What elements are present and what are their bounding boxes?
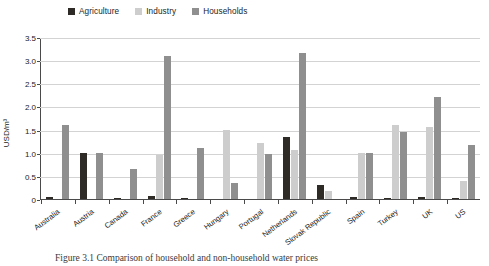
y-tick-label: 2.5	[25, 80, 36, 89]
figure-caption: Figure 3.1 Comparison of household and n…	[55, 253, 445, 263]
bar-households	[62, 125, 69, 199]
y-tick-mark	[37, 107, 40, 108]
bar-agriculture	[384, 198, 391, 199]
bar-industry	[156, 155, 163, 199]
x-label-cell: US	[447, 204, 481, 248]
legend-swatch-industry	[135, 8, 142, 15]
bar-group	[412, 38, 446, 199]
bar-households	[164, 56, 171, 199]
bar-agriculture	[148, 196, 155, 199]
legend-item-households: Households	[192, 7, 247, 16]
bar-households	[197, 148, 204, 199]
x-label-cell: Turkey	[379, 204, 413, 248]
y-tick-mark	[37, 131, 40, 132]
bar-group	[345, 38, 379, 199]
y-tick-mark	[37, 200, 40, 201]
y-tick-mark	[37, 177, 40, 178]
bar-agriculture	[350, 197, 357, 199]
y-tick-label: 1.0	[25, 149, 36, 158]
bar-group	[379, 38, 413, 199]
bar-group	[311, 38, 345, 199]
x-label-cell: France	[143, 204, 177, 248]
x-label-cell: Austria	[75, 204, 109, 248]
bar-industry	[426, 127, 433, 199]
bar-households	[434, 97, 441, 199]
x-axis-category-label: UK	[420, 207, 434, 221]
bar-agriculture	[418, 197, 425, 199]
x-label-cell: Spain	[346, 204, 380, 248]
x-axis-category-label: France	[139, 207, 163, 228]
bar-households	[265, 154, 272, 199]
bar-industry	[223, 130, 230, 199]
y-tick-mark	[37, 84, 40, 85]
x-axis-category-label: Austria	[71, 207, 95, 228]
chart-legend: Agriculture Industry Households	[68, 7, 247, 16]
y-tick-label: 1.5	[25, 126, 36, 135]
x-axis-labels: AustraliaAustriaCanadaFranceGreeceHungar…	[41, 204, 481, 248]
bar-agriculture	[80, 153, 87, 199]
bar-group	[75, 38, 109, 199]
x-label-cell: Slovak Republic	[312, 204, 346, 248]
bar-households	[299, 53, 306, 199]
bar-industry	[257, 143, 264, 199]
bar-industry	[358, 153, 365, 199]
x-label-cell: Canada	[109, 204, 143, 248]
bar-agriculture	[46, 197, 53, 199]
bar-group	[244, 38, 278, 199]
bar-households	[96, 153, 103, 199]
bar-group	[176, 38, 210, 199]
y-axis-title: USD/m³	[2, 119, 11, 147]
legend-item-industry: Industry	[135, 7, 176, 16]
legend-item-agriculture: Agriculture	[68, 7, 119, 16]
x-label-cell: Australia	[41, 204, 75, 248]
figure-container: Agriculture Industry Households USD/m³ 0…	[0, 0, 489, 266]
x-label-cell: UK	[413, 204, 447, 248]
bar-industry	[325, 191, 332, 199]
y-tick-mark	[37, 154, 40, 155]
bar-group	[142, 38, 176, 199]
bar-households	[366, 153, 373, 199]
bar-industry	[291, 150, 298, 199]
legend-swatch-agriculture	[68, 8, 75, 15]
y-tick-label: 0.5	[25, 172, 36, 181]
bar-industry	[460, 181, 467, 200]
x-axis-category-label: US	[454, 207, 468, 221]
bar-group	[109, 38, 143, 199]
y-tick-label: 3.0	[25, 57, 36, 66]
legend-swatch-households	[192, 8, 199, 15]
bar-group	[210, 38, 244, 199]
bar-agriculture	[452, 198, 459, 199]
legend-label-households: Households	[203, 7, 247, 16]
bar-agriculture	[317, 185, 324, 199]
bar-group	[277, 38, 311, 199]
bar-group	[41, 38, 75, 199]
bar-households	[400, 132, 407, 199]
x-axis-category-label: Turkey	[376, 207, 400, 228]
x-axis-category-label: Australia	[33, 207, 62, 232]
y-tick-mark	[37, 61, 40, 62]
x-axis-category-label: Spain	[345, 207, 366, 226]
bar-agriculture	[283, 137, 290, 199]
bar-groups	[41, 38, 480, 199]
y-tick-mark	[37, 38, 40, 39]
bar-agriculture	[114, 198, 121, 199]
bar-households	[468, 145, 475, 199]
bar-households	[231, 183, 238, 199]
legend-label-industry: Industry	[146, 7, 176, 16]
bar-industry	[392, 125, 399, 199]
plot-area: 00.51.01.52.02.53.03.5	[40, 38, 480, 200]
legend-label-agriculture: Agriculture	[79, 7, 119, 16]
x-axis-category-label: Greece	[172, 207, 197, 229]
bar-agriculture	[181, 198, 188, 199]
bar-households	[130, 169, 137, 199]
y-tick-label: 0	[32, 196, 36, 205]
y-tick-label: 2.0	[25, 103, 36, 112]
y-tick-label: 3.5	[25, 34, 36, 43]
bar-group	[446, 38, 480, 199]
